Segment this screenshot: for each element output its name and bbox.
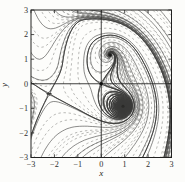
x-tick-label: −2 <box>50 160 59 169</box>
x-axis-label: x <box>98 168 103 178</box>
y-tick-label: 2 <box>24 30 28 39</box>
y-axis-label: y <box>0 83 9 88</box>
x-tick-label: 1 <box>123 160 127 169</box>
vortex-center-dot <box>122 105 125 108</box>
x-tick-label: 3 <box>169 160 173 169</box>
y-tick-label: 1 <box>24 55 28 64</box>
convergence-smudge <box>46 93 52 95</box>
phase-portrait-chart: −3−2−10123−3−2−10123x y <box>0 0 185 182</box>
x-tick-label: −1 <box>73 160 82 169</box>
y-tick-label: −2 <box>19 129 28 138</box>
y-tick-label: 3 <box>24 6 28 15</box>
y-tick-label: −1 <box>19 104 28 113</box>
phase-portrait-figure: −3−2−10123−3−2−10123x y <box>0 0 185 182</box>
y-tick-label: 0 <box>24 80 28 89</box>
spiral-center-dot <box>108 53 112 57</box>
x-tick-label: 2 <box>146 160 150 169</box>
origin-equilibrium-dot <box>100 82 103 85</box>
y-tick-label: −3 <box>19 153 28 162</box>
